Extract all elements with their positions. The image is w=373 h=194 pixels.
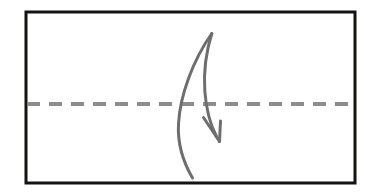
arrowhead-right-barb <box>220 121 221 142</box>
figure-root <box>0 0 373 194</box>
diagram-canvas <box>0 0 373 194</box>
